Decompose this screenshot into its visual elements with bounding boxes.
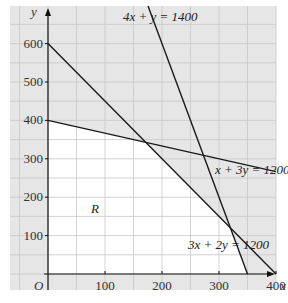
equation-label-3x-plus-2y: 3x + 2y = 1200	[187, 237, 270, 252]
y-tick-label: 600	[24, 36, 44, 51]
equation-label-4x-plus-y: 4x + y = 1400	[123, 9, 198, 24]
y-tick-label: 300	[24, 151, 44, 166]
x-tick-label: 200	[152, 278, 172, 293]
origin-label: O	[34, 278, 44, 293]
y-tick-label: 100	[24, 228, 44, 243]
region-r-label: R	[90, 201, 99, 216]
y-tick-label: 400	[24, 112, 44, 127]
linear-programming-graph: 100200300400500100200300400500600 y x O …	[0, 0, 288, 303]
y-axis-label: y	[29, 4, 37, 19]
equation-label-x-plus-3y: x + 3y = 1200	[214, 162, 288, 177]
x-tick-label: 300	[209, 278, 229, 293]
y-tick-label: 500	[24, 74, 44, 89]
x-axis-label: x	[279, 278, 286, 293]
y-tick-label: 200	[24, 189, 44, 204]
x-tick-label: 100	[95, 278, 115, 293]
